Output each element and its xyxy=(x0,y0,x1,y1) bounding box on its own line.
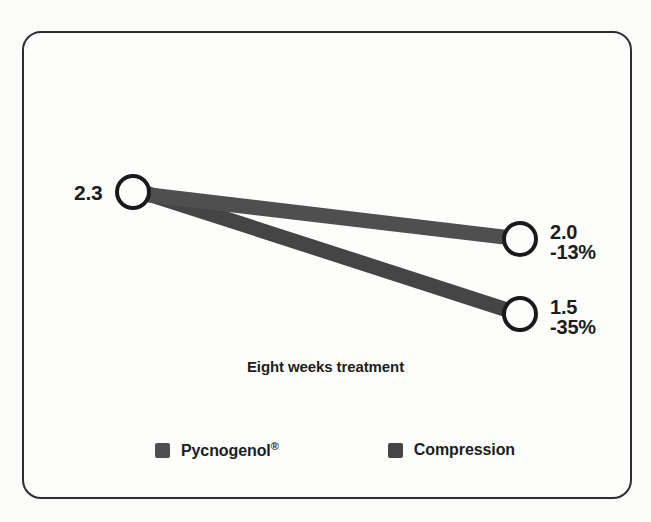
legend-item-compression: Compression xyxy=(388,441,515,459)
pycnogenol-value-label: 2.0 xyxy=(550,222,596,242)
compression-endpoint-labels: 1.5 -35% xyxy=(550,297,596,337)
figure-frame xyxy=(22,31,632,499)
legend-label-compression: Compression xyxy=(414,441,515,459)
registered-trademark-icon: ® xyxy=(271,440,279,452)
chart-legend: Pycnogenol® Compression xyxy=(155,440,515,460)
square-swatch-icon xyxy=(155,443,170,458)
axis-caption: Eight weeks treatment xyxy=(0,358,651,375)
baseline-value-label: 2.3 xyxy=(74,181,103,205)
legend-label-pycnogenol: Pycnogenol® xyxy=(181,440,279,460)
pycnogenol-endpoint-labels: 2.0 -13% xyxy=(550,222,596,262)
legend-label-compression-text: Compression xyxy=(414,441,515,458)
legend-label-pycnogenol-text: Pycnogenol xyxy=(181,442,271,459)
compression-delta-label: -35% xyxy=(550,317,596,337)
square-swatch-icon xyxy=(388,443,403,458)
figure-page-background: 2.3 2.0 -13% 1.5 -35% Eight weeks treatm… xyxy=(0,0,651,522)
pycnogenol-delta-label: -13% xyxy=(550,242,596,262)
compression-value-label: 1.5 xyxy=(550,297,596,317)
legend-item-pycnogenol: Pycnogenol® xyxy=(155,440,279,460)
